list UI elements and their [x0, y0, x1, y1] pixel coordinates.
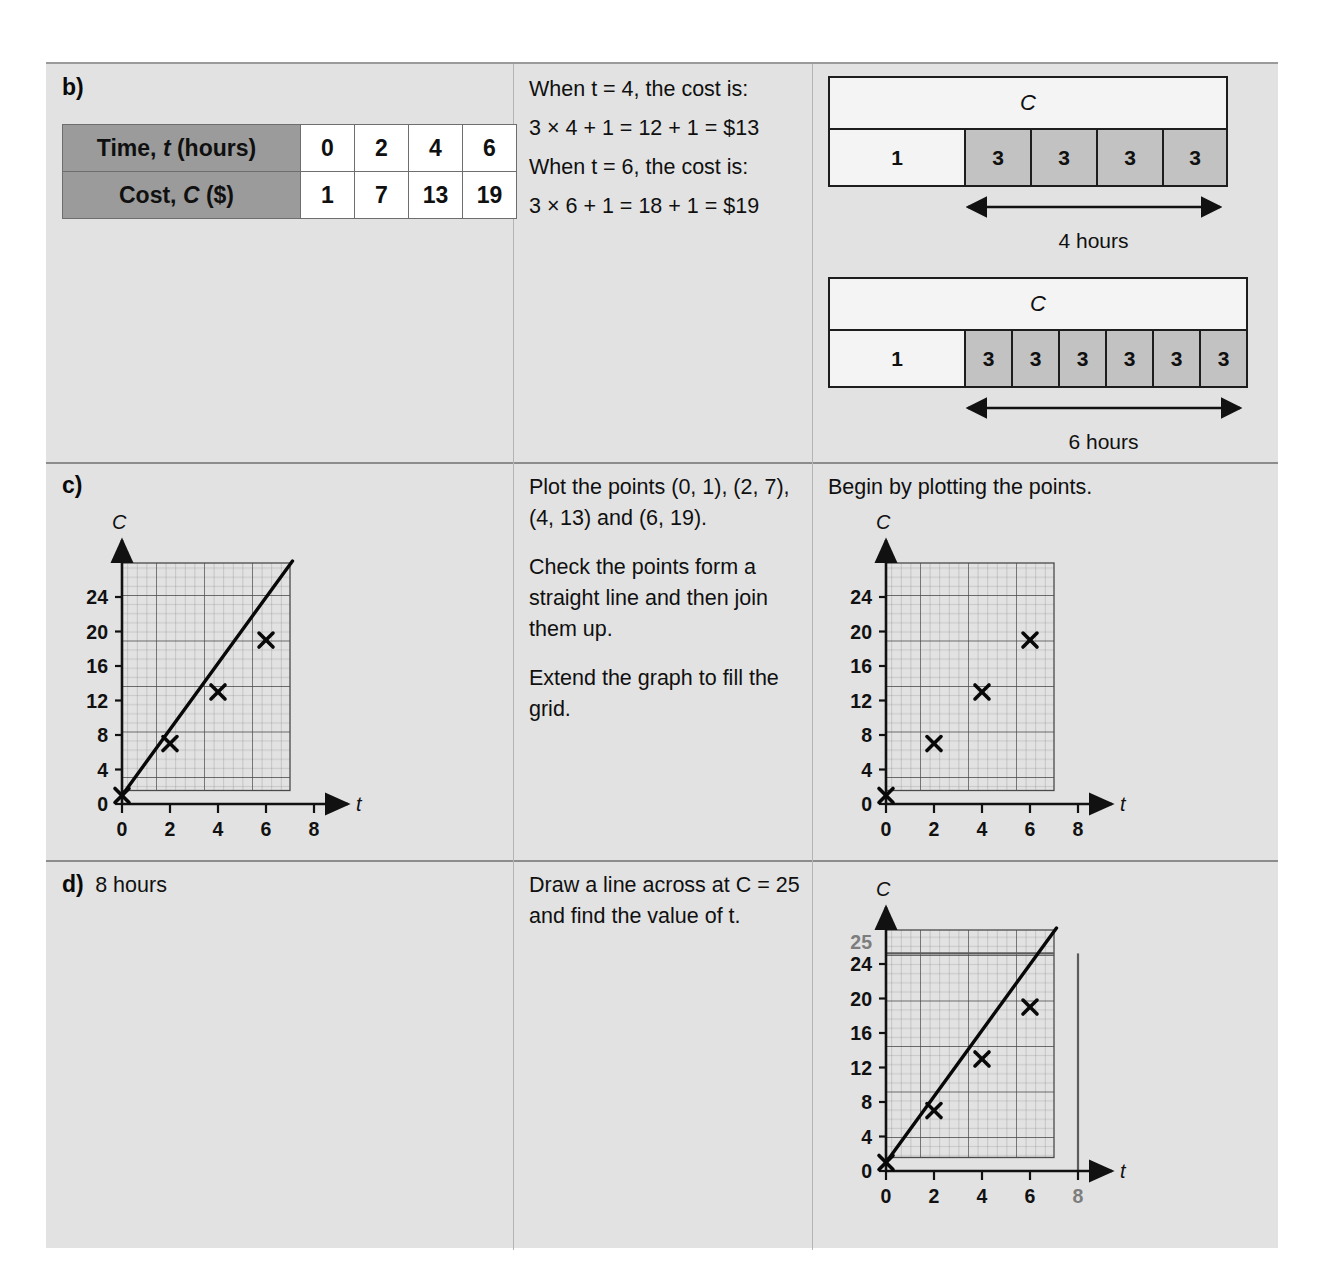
working-line: Plot the points (0, 1), (2, 7), (4, 13) … — [529, 472, 804, 534]
svg-text:24: 24 — [86, 586, 108, 608]
working-line: 3 × 4 + 1 = 12 + 1 = $13 — [529, 113, 804, 144]
svg-text:6: 6 — [1025, 1185, 1036, 1207]
bar-model-6-hours: C 1 3 3 3 3 3 3 6 hours — [828, 277, 1248, 454]
column-divider-b-2 — [812, 64, 813, 462]
section-label-b: b) — [62, 74, 84, 101]
bar-arrow-4-hours — [828, 187, 1228, 227]
double-arrow-icon — [828, 388, 1248, 422]
section-d-letter: d) — [62, 871, 84, 897]
svg-text:4: 4 — [213, 818, 224, 840]
svg-text:C: C — [876, 878, 891, 900]
table-row: Cost, C ($) 1 7 13 19 — [63, 172, 517, 219]
svg-text:0: 0 — [861, 793, 872, 815]
svg-text:t: t — [1120, 1160, 1127, 1182]
svg-text:8: 8 — [861, 1091, 872, 1113]
column-divider-c-1 — [513, 462, 514, 860]
bar-part-rate: 3 — [1060, 331, 1107, 386]
bar-arrow-label: 6 hours — [828, 430, 1244, 454]
graph-d-hint-svg: C t 0 — [824, 864, 1144, 1244]
svg-text:20: 20 — [850, 621, 872, 643]
bar-total-label: C — [830, 90, 1226, 116]
bar-arrow-label: 4 hours — [828, 229, 1224, 253]
table-cell: 0 — [301, 125, 355, 172]
working-line: 3 × 6 + 1 = 18 + 1 = $19 — [529, 191, 804, 222]
svg-text:4: 4 — [861, 1126, 872, 1148]
table-cell: 6 — [463, 125, 517, 172]
bar-part-rate: 3 — [1164, 130, 1226, 185]
working-line: Check the points form a straight line an… — [529, 552, 804, 645]
svg-text:C: C — [876, 511, 891, 533]
svg-text:t: t — [1120, 793, 1127, 815]
answer-panel: b) Time, t (hours) 0 2 4 6 Cost, C ($) 1… — [46, 62, 1278, 1248]
row-header-cost: Cost, C ($) — [63, 172, 301, 219]
section-b-letter: b) — [62, 74, 84, 100]
svg-text:0: 0 — [97, 793, 108, 815]
svg-text:12: 12 — [850, 690, 872, 712]
svg-text:24: 24 — [850, 953, 872, 975]
bar-total-C: C — [828, 76, 1228, 130]
bar-total-label: C — [830, 291, 1246, 317]
svg-text:4: 4 — [97, 759, 108, 781]
svg-text:2: 2 — [165, 818, 176, 840]
cost-time-table: Time, t (hours) 0 2 4 6 Cost, C ($) 1 7 … — [62, 124, 517, 219]
svg-text:20: 20 — [850, 988, 872, 1010]
table-cell: 13 — [409, 172, 463, 219]
table-cell: 7 — [355, 172, 409, 219]
svg-text:8: 8 — [1073, 1185, 1084, 1207]
svg-text:6: 6 — [261, 818, 272, 840]
double-arrow-icon — [828, 187, 1228, 221]
bar-part-rate: 3 — [966, 331, 1013, 386]
bar-part-rate: 3 — [1107, 331, 1154, 386]
working-b: When t = 4, the cost is: 3 × 4 + 1 = 12 … — [529, 74, 804, 222]
row-header-time: Time, t (hours) — [63, 125, 301, 172]
working-line: When t = 6, the cost is: — [529, 152, 804, 183]
bar-parts-row: 1 3 3 3 3 — [828, 130, 1228, 187]
section-d-answer: d) 8 hours — [62, 870, 502, 901]
svg-text:t: t — [356, 793, 363, 815]
svg-text:0: 0 — [117, 818, 128, 840]
bar-part-rate: 3 — [1154, 331, 1201, 386]
table-cell: 1 — [301, 172, 355, 219]
bar-part-rate: 3 — [1201, 331, 1246, 386]
working-line: Extend the graph to fill the grid. — [529, 663, 804, 725]
bar-part-rate: 3 — [1013, 331, 1060, 386]
svg-text:8: 8 — [1073, 818, 1084, 840]
svg-text:25: 25 — [850, 931, 872, 953]
data-table-b: Time, t (hours) 0 2 4 6 Cost, C ($) 1 7 … — [62, 124, 517, 219]
svg-text:12: 12 — [850, 1057, 872, 1079]
svg-text:0: 0 — [881, 1185, 892, 1207]
working-c: Plot the points (0, 1), (2, 7), (4, 13) … — [529, 472, 804, 725]
graph-c-hint: C t 0 4 8 12 — [824, 504, 1144, 849]
row-divider-c-d — [46, 860, 1278, 862]
column-divider-c-2 — [812, 462, 813, 860]
row-divider-b-c — [46, 462, 1278, 464]
svg-text:8: 8 — [97, 724, 108, 746]
table-cell: 19 — [463, 172, 517, 219]
bar-part-unit: 1 — [830, 331, 966, 386]
graph-c-answer-svg: C t 0 — [60, 504, 380, 849]
bar-part-rate: 3 — [1032, 130, 1098, 185]
svg-text:12: 12 — [86, 690, 108, 712]
svg-text:C: C — [112, 511, 127, 533]
graph-c-answer: C t 0 — [60, 504, 380, 849]
working-line: When t = 4, the cost is: — [529, 74, 804, 105]
svg-text:4: 4 — [977, 818, 988, 840]
svg-text:20: 20 — [86, 621, 108, 643]
section-label-c: c) — [62, 472, 82, 499]
table-row: Time, t (hours) 0 2 4 6 — [63, 125, 517, 172]
column-divider-d-1 — [513, 860, 514, 1250]
svg-text:8: 8 — [861, 724, 872, 746]
column-divider-d-2 — [812, 860, 813, 1250]
svg-text:24: 24 — [850, 586, 872, 608]
answer-d-value: 8 hours — [95, 873, 167, 897]
svg-text:4: 4 — [977, 1185, 988, 1207]
svg-text:2: 2 — [929, 1185, 940, 1207]
svg-text:16: 16 — [850, 1022, 872, 1044]
bar-part-rate: 3 — [966, 130, 1032, 185]
svg-text:16: 16 — [850, 655, 872, 677]
bar-total-C: C — [828, 277, 1248, 331]
hint-line: Begin by plotting the points. — [828, 472, 1228, 503]
svg-text:16: 16 — [86, 655, 108, 677]
graph-c-hint-svg: C t 0 4 8 12 — [824, 504, 1144, 849]
svg-text:8: 8 — [309, 818, 320, 840]
